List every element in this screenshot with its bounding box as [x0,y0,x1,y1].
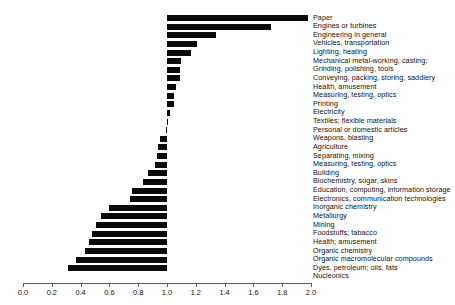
bar [85,248,167,254]
bar-category-label: Agriculture [313,142,348,151]
bar-row: Electronics, communication technologies [0,195,455,204]
x-axis-tick-mark [282,283,283,287]
bar-row: Agriculture [0,143,455,152]
bar-category-label: Organic macromolecular compounds [313,254,433,263]
bar-row: Health; amusement [0,238,455,247]
x-axis-tick-label: 0.6 [104,288,114,297]
bar [167,41,197,47]
bar [160,136,167,142]
x-axis-tick-mark [23,283,24,287]
x-axis-tick-mark [196,283,197,287]
bar [167,32,216,38]
bar [148,170,167,176]
bar-row: Nucleonics [0,273,455,282]
bar-row: Inorganic chemistry [0,204,455,213]
plot-area: PaperEngines or turbinesEngineering in g… [0,0,455,305]
x-axis-tick-mark [52,283,53,287]
x-axis-tick-mark [253,283,254,287]
bar [130,196,167,202]
bar-category-label: Grinding, polishing, tools [313,64,394,73]
bar [157,153,167,159]
bar [167,110,170,116]
bar [167,119,168,125]
bar [96,222,167,228]
x-axis-tick-label: 1.6 [248,288,258,297]
x-axis-tick-label: 2.0 [306,288,316,297]
x-axis-tick-mark [311,283,312,287]
bar-category-label: Textiles; flexible materials [313,116,397,125]
bar [68,265,167,271]
bar [143,179,167,185]
x-axis-tick-label: 1.0 [162,288,172,297]
bar [167,67,180,73]
bar [89,239,167,245]
bar-row: Measuring, testing, optics [0,92,455,101]
bar [101,213,167,219]
bar [76,257,167,263]
x-axis-tick-label: 0.2 [47,288,57,297]
x-axis-tick-label: 1.8 [277,288,287,297]
bar [158,144,167,150]
bar [109,205,167,211]
bar [166,127,167,133]
bar-category-label: Nucleonics [313,271,349,280]
x-axis-tick-mark [81,283,82,287]
x-axis-tick-mark [225,283,226,287]
bar-chart: PaperEngines or turbinesEngineering in g… [0,0,455,305]
x-axis-tick-label: 0.0 [18,288,28,297]
bar-category-label: Building [313,168,339,177]
bar [167,101,174,107]
bar [167,58,181,64]
bar [132,188,167,194]
bar [167,24,271,30]
bar-row: Printing [0,100,455,109]
x-axis-tick-label: 1.4 [219,288,229,297]
x-axis-tick-label: 0.4 [75,288,85,297]
bar-row: Conveying, packing, storing, saddlery [0,74,455,83]
x-axis-tick-label: 0.8 [133,288,143,297]
bar-row: Vehicles, transportation [0,40,455,49]
bar [167,75,180,81]
bar [167,15,308,21]
bar [167,93,174,99]
bar-row: Weapons, blasting [0,135,455,144]
bar-row: Mining [0,221,455,230]
x-axis-tick-mark [138,283,139,287]
bar-category-label: Measuring, testing, optics [313,90,396,99]
bar [167,50,191,56]
bar [92,231,167,237]
x-axis-tick-label: 1.2 [191,288,201,297]
x-axis-tick-mark [109,283,110,287]
bar-row: Measuring, testing, optics [0,161,455,170]
x-axis-tick-mark [167,283,168,287]
bar-row: Personal or domestic articles [0,126,455,135]
bar-category-label: Vehicles, transportation [313,38,389,47]
bar-row: Paper [0,14,455,23]
bar-row: Dyes, petroleum; oils, fats [0,264,455,273]
bar [167,84,176,90]
bar [155,162,167,168]
bar-row: Foodstuffs; tabacco [0,230,455,239]
bar-category-label: Electronics, communication technologies [313,194,446,203]
bar-category-label: Mining [313,220,335,229]
bar-row: Metallurgy [0,212,455,221]
